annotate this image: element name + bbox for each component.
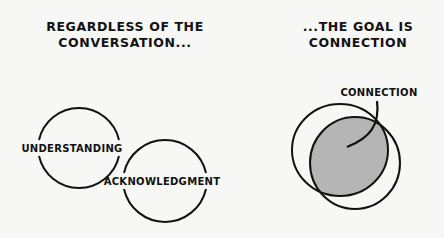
venn-diagrams: UNDERSTANDING ACKNOWLEDGMENT CONNECTION xyxy=(0,0,444,238)
connection-venn: CONNECTION xyxy=(292,87,418,209)
understanding-label: UNDERSTANDING xyxy=(21,143,122,154)
acknowledgment-label: ACKNOWLEDGMENT xyxy=(104,176,221,187)
connection-label: CONNECTION xyxy=(340,87,417,98)
